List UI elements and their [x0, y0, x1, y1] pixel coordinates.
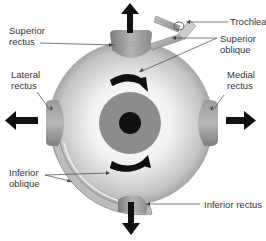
label-trochlea: Trochlea [230, 16, 266, 27]
pull-left-arrow-icon [5, 111, 38, 130]
pull-right-arrow-icon [226, 111, 256, 130]
pull-up-arrow-icon [121, 3, 139, 33]
label-inferior-rectus: Inferior rectus [204, 199, 262, 210]
pupil [119, 112, 141, 134]
label-medial-rectus: Medial rectus [227, 69, 255, 91]
label-inferior-oblique: Inferior oblique [9, 167, 40, 189]
label-superior-oblique: Superior oblique [220, 33, 256, 55]
eye-muscle-diagram: Superior rectus Trochlea Superior obliqu… [0, 0, 266, 241]
label-superior-rectus: Superior rectus [9, 25, 45, 47]
leader-superior-rectus [40, 43, 115, 45]
label-lateral-rectus: Lateral rectus [11, 69, 40, 91]
